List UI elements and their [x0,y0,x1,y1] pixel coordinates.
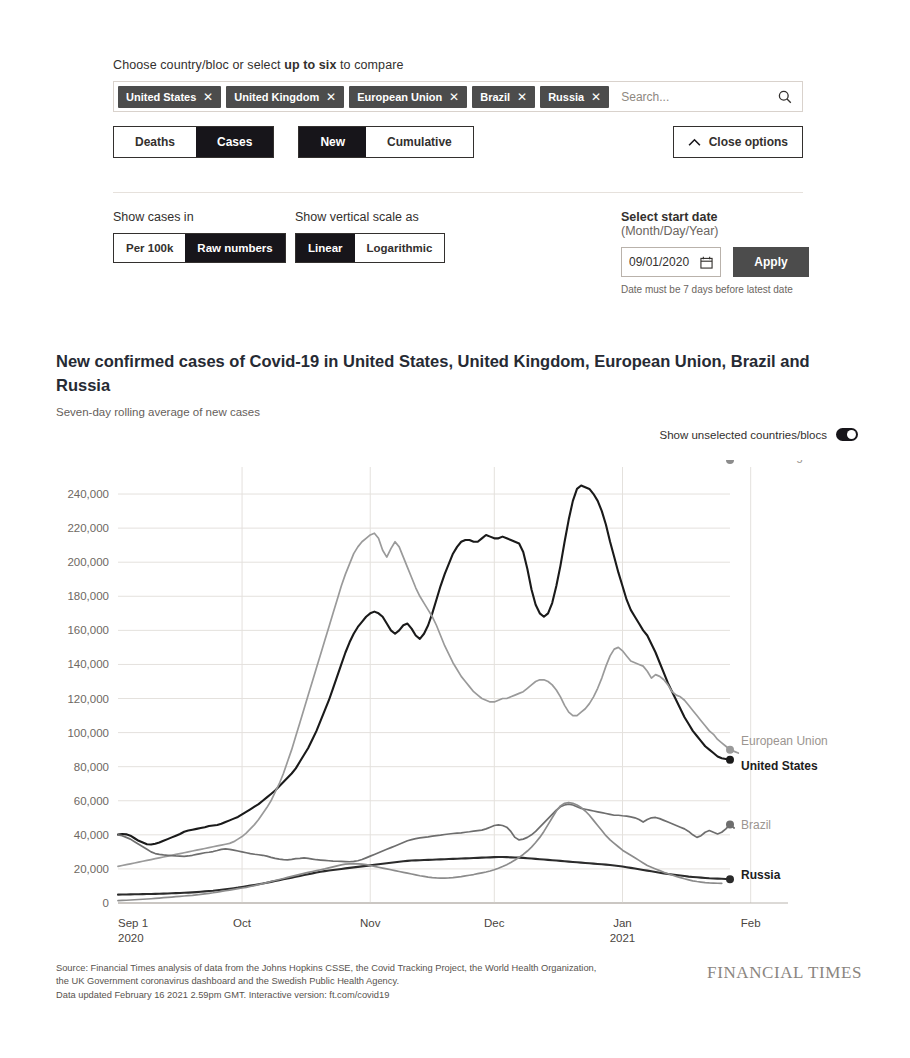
chart-subtitle: Seven-day rolling average of new cases [56,406,260,418]
y-axis-tick-label: 60,000 [74,795,109,807]
y-axis-tick-label: 240,000 [67,488,109,500]
chart-plot-area: 020,00040,00060,00080,000100,000120,0001… [56,460,856,950]
show-unselected-toggle[interactable]: Show unselected countries/blocs [660,428,859,441]
chip-russia[interactable]: Russia ✕ [540,86,609,108]
scale-option-logarithmic[interactable]: Logarithmic [355,234,445,262]
scale-option-linear[interactable]: Linear [296,234,355,262]
source-line-1: Source: Financial Times analysis of data… [56,962,676,975]
chip-label: United States [126,86,196,108]
series-line-brazil [118,804,734,862]
start-date-label-format: (Month/Day/Year) [621,224,719,238]
series-end-label-russia: Russia [741,868,781,882]
series-endpoint-united-kingdom [726,460,734,464]
chip-united-kingdom[interactable]: United Kingdom ✕ [226,86,344,108]
toggle-knob [847,430,856,439]
cases-option-per-100k[interactable]: Per 100k [114,234,185,262]
series-endpoint-brazil [726,821,734,829]
country-chip-row[interactable]: United States ✕ United Kingdom ✕ Europea… [113,81,803,112]
search-input[interactable] [619,89,778,105]
search-icon[interactable] [778,90,792,104]
y-axis-tick-label: 0 [103,897,109,909]
x-axis-tick-label: Jan [613,917,632,929]
metric-toggle-row: Deaths Cases New Cumulative Close option… [113,126,803,158]
y-axis-tick-label: 120,000 [67,693,109,705]
calendar-icon[interactable] [700,256,713,269]
remove-chip-icon[interactable]: ✕ [203,91,213,103]
series-line-european-union [118,533,738,866]
cases-option-raw-numbers[interactable]: Raw numbers [185,234,284,262]
metric-option-deaths[interactable]: Deaths [114,127,196,157]
ft-covid-chart-page: Choose country/bloc or select up to six … [0,0,910,1058]
x-axis-tick-label: Dec [484,917,505,929]
choose-label-pre: Choose country/bloc or select [113,58,284,72]
chip-european-union[interactable]: European Union ✕ [349,86,467,108]
series-end-label-united-states: United States [741,759,818,773]
show-cases-in-group: Show cases in Per 100k Raw numbers [113,210,286,263]
choose-label-bold: up to six [284,58,336,72]
start-date-group: Select start date (Month/Day/Year) 09/01… [621,210,809,295]
vertical-scale-group: Show vertical scale as Linear Logarithmi… [295,210,445,263]
remove-chip-icon[interactable]: ✕ [449,91,459,103]
series-endpoint-european-union [726,746,734,754]
x-axis-tick-year: 2020 [118,932,144,944]
apply-button[interactable]: Apply [733,247,809,277]
chart-title: New confirmed cases of Covid-19 in Unite… [56,350,846,398]
chip-united-states[interactable]: United States ✕ [118,86,221,108]
source-line-2: the UK Government coronavirus dashboard … [56,975,676,988]
y-axis-tick-label: 220,000 [67,522,109,534]
x-axis-tick-label: Nov [360,917,381,929]
metric-option-cases[interactable]: Cases [196,127,273,157]
x-axis-tick-label: Oct [233,917,252,929]
search-area[interactable] [614,89,798,105]
count-segment[interactable]: New Cumulative [298,126,473,158]
start-date-input[interactable]: 09/01/2020 [621,247,721,277]
choose-country-label: Choose country/bloc or select up to six … [113,58,803,72]
start-date-value: 09/01/2020 [629,255,689,269]
series-end-label-brazil: Brazil [741,818,771,832]
choose-label-post: to compare [336,58,403,72]
series-endpoint-russia [726,875,734,883]
chip-label: United Kingdom [234,86,319,108]
show-cases-in-segment[interactable]: Per 100k Raw numbers [113,233,286,263]
y-axis-tick-label: 140,000 [67,658,109,670]
vertical-scale-segment[interactable]: Linear Logarithmic [295,233,445,263]
x-axis-tick-label: Feb [741,917,761,929]
controls-panel: Choose country/bloc or select up to six … [113,58,803,158]
y-axis-tick-label: 40,000 [74,829,109,841]
vertical-scale-label: Show vertical scale as [295,210,445,224]
remove-chip-icon[interactable]: ✕ [591,91,601,103]
y-axis-tick-label: 200,000 [67,556,109,568]
chip-label: Brazil [480,86,510,108]
start-date-label: Select start date (Month/Day/Year) [621,210,809,238]
y-axis-tick-label: 160,000 [67,624,109,636]
chip-label: European Union [357,86,442,108]
remove-chip-icon[interactable]: ✕ [326,91,336,103]
y-axis-tick-label: 80,000 [74,761,109,773]
source-line-3: Data updated February 16 2021 2.59pm GMT… [56,989,676,1002]
y-axis-tick-label: 20,000 [74,863,109,875]
y-axis-tick-label: 100,000 [67,727,109,739]
x-axis-tick-label: Sep 1 [118,917,148,929]
metric-segment[interactable]: Deaths Cases [113,126,274,158]
show-unselected-label: Show unselected countries/blocs [660,429,828,441]
financial-times-logo: FINANCIAL TIMES [707,963,862,983]
start-date-hint: Date must be 7 days before latest date [621,284,809,295]
series-endpoint-united-states [726,756,734,764]
controls-divider [113,192,803,193]
close-options-button[interactable]: Close options [673,126,803,158]
start-date-label-strong: Select start date [621,210,718,224]
x-axis-tick-year: 2021 [610,932,636,944]
chip-label: Russia [548,86,584,108]
count-option-new[interactable]: New [299,127,366,157]
series-end-label-united-kingdom: United Kingdom [741,460,826,463]
chart-source-note: Source: Financial Times analysis of data… [56,962,676,1002]
toggle-switch-icon[interactable] [836,428,858,441]
line-chart-svg: 020,00040,00060,00080,000100,000120,0001… [56,460,856,950]
start-date-row: 09/01/2020 Apply [621,247,809,277]
series-line-united-states [118,486,730,845]
count-option-cumulative[interactable]: Cumulative [366,127,473,157]
chip-brazil[interactable]: Brazil ✕ [472,86,535,108]
y-axis-tick-label: 180,000 [67,590,109,602]
remove-chip-icon[interactable]: ✕ [517,91,527,103]
show-cases-in-label: Show cases in [113,210,286,224]
